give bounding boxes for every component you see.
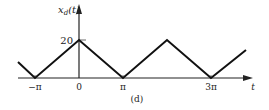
waveform-line: [18, 40, 246, 78]
x-axis-label: t: [251, 82, 255, 92]
xtick-label-0: 0: [76, 82, 82, 92]
figure-caption: (d): [131, 94, 144, 104]
ytick-label-20: 20: [60, 35, 73, 46]
y-axis-label: xd(t): [58, 4, 80, 17]
xtick-label-3pi: 3π: [205, 82, 217, 92]
xtick-label-pi: π: [120, 82, 126, 92]
triangular-wave-plot: xd(t) 20 −π 0 π 3π t (d): [0, 0, 269, 110]
x-axis-arrow-icon: [243, 75, 253, 81]
xtick-label-neg-pi: −π: [28, 82, 42, 92]
